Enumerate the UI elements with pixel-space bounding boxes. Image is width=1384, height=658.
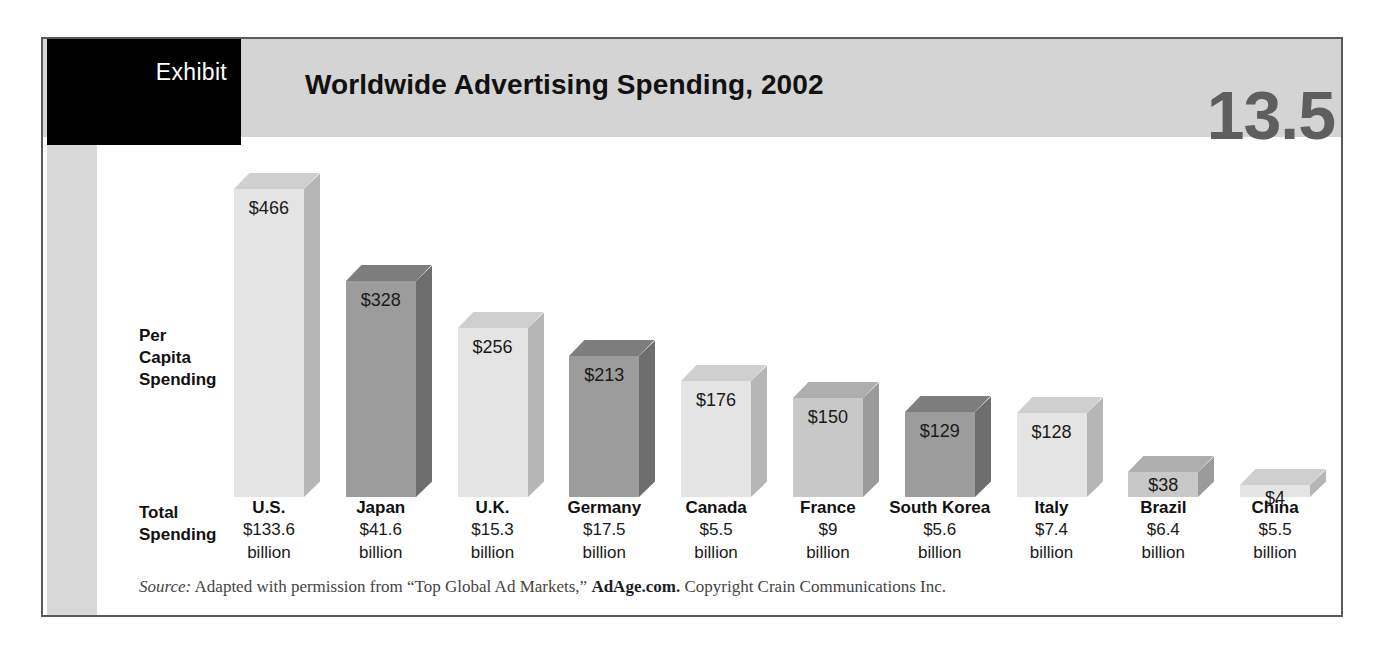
- total-spending-value: $6.4: [1107, 519, 1219, 542]
- total-spending-value: $5.6: [884, 519, 996, 542]
- bar-value-label: $128: [1017, 422, 1087, 443]
- bar-value-label: $213: [569, 365, 639, 386]
- bar-body: $129: [905, 412, 975, 497]
- total-spending-label: Total Spending: [139, 502, 216, 546]
- category-name: Japan: [325, 497, 437, 519]
- bar-value-label: $4: [1240, 488, 1310, 509]
- category-name: Italy: [996, 497, 1108, 519]
- category-germany: Germany$17.5billion: [548, 497, 660, 565]
- bar-body: $38: [1128, 472, 1198, 497]
- bar-side-face: [975, 396, 991, 497]
- bar-u-s-: $466: [234, 145, 304, 497]
- total-spending-unit: billion: [548, 542, 660, 565]
- bar-side-face: [304, 174, 320, 497]
- bar-value-label: $328: [346, 290, 416, 311]
- total-spending-unit: billion: [884, 542, 996, 565]
- bar-canada: $176: [681, 145, 751, 497]
- category-u-s-: U.S.$133.6billion: [213, 497, 325, 565]
- bar-side-face: [416, 265, 432, 497]
- total-spending-value: $133.6: [213, 519, 325, 542]
- bar-side-face: [528, 313, 544, 497]
- bar-value-label: $150: [793, 407, 863, 428]
- bar-side-face: [863, 383, 879, 497]
- bar-italy: $128: [1017, 145, 1087, 497]
- total-spending-unit: billion: [213, 542, 325, 565]
- category-name: U.K.: [437, 497, 549, 519]
- bar-value-label: $256: [458, 337, 528, 358]
- bar-brazil: $38: [1128, 145, 1198, 497]
- total-spending-value: $9: [772, 519, 884, 542]
- bar-value-label: $176: [681, 390, 751, 411]
- bar-china: $4: [1240, 145, 1310, 497]
- chart-plot-area: Per Capita Spending Total Spending $466$…: [43, 145, 1341, 615]
- total-spending-unit: billion: [1107, 542, 1219, 565]
- total-spending-unit: billion: [325, 542, 437, 565]
- bar-front-face: [346, 281, 416, 497]
- bar-germany: $213: [569, 145, 639, 497]
- bar-u-k-: $256: [458, 145, 528, 497]
- source-text-after: Copyright Crain Communications Inc.: [680, 577, 946, 596]
- bar-body: $213: [569, 356, 639, 497]
- category-name: U.S.: [213, 497, 325, 519]
- bar-france: $150: [793, 145, 863, 497]
- bar-body: $150: [793, 398, 863, 497]
- category-name: France: [772, 497, 884, 519]
- category-canada: Canada$5.5billion: [660, 497, 772, 565]
- total-spending-unit: billion: [996, 542, 1108, 565]
- total-spending-value: $17.5: [548, 519, 660, 542]
- total-spending-unit: billion: [1219, 542, 1331, 565]
- bar-value-label: $466: [234, 198, 304, 219]
- source-note: Source: Adapted with permission from “To…: [139, 577, 946, 597]
- total-spending-unit: billion: [772, 542, 884, 565]
- exhibit-number-tab: Exhibit: [47, 39, 241, 145]
- bar-japan: $328: [346, 145, 416, 497]
- per-capita-spending-label: Per Capita Spending: [139, 325, 216, 390]
- bar-body: $4: [1240, 485, 1310, 497]
- category-name: Canada: [660, 497, 772, 519]
- bar-body: $128: [1017, 413, 1087, 497]
- bars-container: $466$328$256$213$176$150$129$128$38$4: [213, 145, 1331, 497]
- category-name: Brazil: [1107, 497, 1219, 519]
- category-france: France$9billion: [772, 497, 884, 565]
- source-text-before: Adapted with permission from “Top Global…: [191, 577, 591, 596]
- bar-side-face: [751, 365, 767, 497]
- bar-value-label: $38: [1128, 475, 1198, 496]
- source-prefix: Source:: [139, 577, 191, 596]
- bar-body: $256: [458, 328, 528, 497]
- category-south-korea: South Korea$5.6billion: [884, 497, 996, 565]
- category-italy: Italy$7.4billion: [996, 497, 1108, 565]
- category-u-k-: U.K.$15.3billion: [437, 497, 549, 565]
- bar-body: $466: [234, 189, 304, 497]
- total-spending-value: $15.3: [437, 519, 549, 542]
- page-title: Worldwide Advertising Spending, 2002: [305, 69, 824, 101]
- bar-south-korea: $129: [905, 145, 975, 497]
- total-spending-value: $7.4: [996, 519, 1108, 542]
- bar-front-face: [234, 189, 304, 497]
- bar-side-face: [1087, 397, 1103, 497]
- bar-value-label: $129: [905, 421, 975, 442]
- exhibit-number: 13.5: [1207, 81, 1335, 149]
- bar-body: $328: [346, 281, 416, 497]
- category-name: South Korea: [884, 497, 996, 519]
- total-spending-value: $5.5: [1219, 519, 1331, 542]
- bar-body: $176: [681, 381, 751, 497]
- total-spending-value: $5.5: [660, 519, 772, 542]
- category-japan: Japan$41.6billion: [325, 497, 437, 565]
- total-spending-unit: billion: [437, 542, 549, 565]
- source-publisher: AdAge.com.: [591, 577, 680, 596]
- total-spending-value: $41.6: [325, 519, 437, 542]
- category-brazil: Brazil$6.4billion: [1107, 497, 1219, 565]
- bar-side-face: [639, 341, 655, 497]
- exhibit-frame: Exhibit 13.5 Worldwide Advertising Spend…: [41, 37, 1343, 617]
- category-name: Germany: [548, 497, 660, 519]
- total-spending-unit: billion: [660, 542, 772, 565]
- exhibit-label: Exhibit: [156, 61, 227, 84]
